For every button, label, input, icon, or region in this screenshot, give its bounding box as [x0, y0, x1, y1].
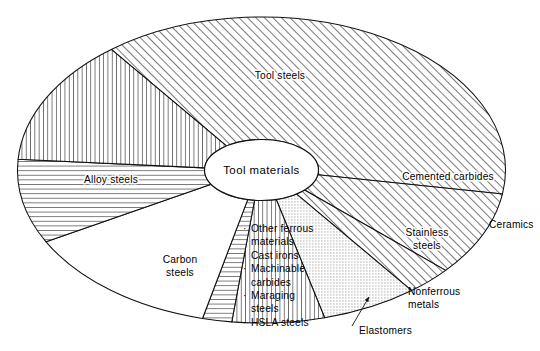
- list-item: Other ferrous: [251, 223, 314, 234]
- sector-label-text: metals: [408, 299, 439, 310]
- sector-label-nonferrous-metals: Nonferrousmetals: [408, 286, 460, 310]
- sector-label-elastomers: Elastomers: [359, 325, 412, 336]
- sector-label-text: Carbon: [163, 254, 198, 265]
- sector-label-alloy-steels: Alloy steels: [84, 174, 138, 185]
- list-item: Machinable: [251, 263, 305, 274]
- sector-label-text: Stainless: [405, 227, 448, 238]
- hub-label: Tool materials: [223, 164, 300, 176]
- list-item: materials: [251, 236, 294, 247]
- sector-label-text: steels: [166, 267, 194, 278]
- figure-canvas: Tool materials Tool steelsCemented carbi…: [0, 0, 540, 351]
- list-item: HSLA steels: [251, 317, 309, 328]
- sector-label-text: Alloy steels: [84, 174, 138, 185]
- list-bullet-icon: ·: [243, 223, 247, 234]
- hub-layer: Tool materials: [205, 140, 319, 201]
- list-bullet-icon: ·: [243, 263, 247, 274]
- sector-label-text: steels: [413, 240, 441, 251]
- sector-label-text: Nonferrous: [408, 286, 460, 297]
- list-item: Maraging: [251, 290, 295, 301]
- list-bullet-icon: ·: [243, 250, 247, 261]
- list-item: steels: [251, 303, 279, 314]
- list-bullet-icon: ·: [243, 317, 247, 328]
- sector-label-text: Tool steels: [255, 70, 305, 81]
- sector-label-text: Cemented carbides: [402, 171, 494, 182]
- sector-label-carbon-steels: Carbonsteels: [163, 254, 198, 278]
- tool-materials-pie-diagram: Tool materials Tool steelsCemented carbi…: [0, 0, 540, 351]
- sector-label-cemented-carbides: Cemented carbides: [402, 171, 494, 182]
- list-item: carbides: [251, 277, 291, 288]
- list-bullet-icon: ·: [243, 290, 247, 301]
- sector-label-ceramics: Ceramics: [489, 219, 534, 230]
- sector-label-text: Elastomers: [359, 325, 412, 336]
- list-item: Cast irons: [251, 250, 299, 261]
- sector-label-text: Ceramics: [489, 219, 534, 230]
- sector-label-tool-steels: Tool steels: [255, 70, 305, 81]
